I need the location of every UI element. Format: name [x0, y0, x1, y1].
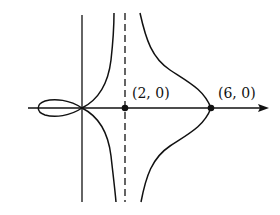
curve-branch-left-upper [82, 13, 114, 108]
curve-diagram: (2, 0) (6, 0) [0, 0, 280, 215]
point-6-0-marker [208, 105, 215, 112]
point-2-0-label: (2, 0) [132, 85, 170, 101]
point-6-0-label: (6, 0) [218, 85, 256, 101]
curve-branch-left-lower [82, 108, 116, 202]
curve-branch-right-lower [141, 108, 211, 202]
point-2-0-marker [122, 105, 129, 112]
